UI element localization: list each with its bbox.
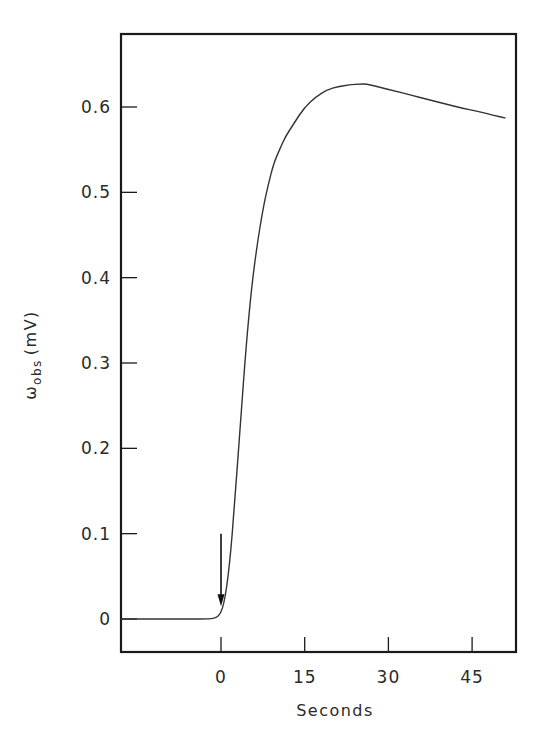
- x-tick-label: 30: [377, 667, 401, 687]
- y-tick-label: 0.5: [81, 182, 111, 202]
- y-tick-label: 0.6: [81, 97, 111, 117]
- y-tick-label: 0.4: [81, 268, 111, 288]
- y-tick-label: 0: [99, 609, 111, 629]
- x-tick-label: 0: [215, 667, 227, 687]
- y-tick-label: 0.1: [81, 524, 111, 544]
- y-axis-title-unit: (mV): [21, 310, 40, 355]
- x-tick-label: 45: [460, 667, 484, 687]
- x-axis-title: Seconds: [296, 701, 374, 720]
- y-tick-label: 0.3: [81, 353, 111, 373]
- y-axis-title-subscript: obs: [30, 359, 44, 385]
- y-tick-label: 0.2: [81, 438, 111, 458]
- y-axis-title-symbol: ω: [21, 385, 40, 400]
- x-tick-label: 15: [293, 667, 317, 687]
- chart-canvas: 00.10.20.30.40.50.6 0153045 Seconds ωobs…: [0, 0, 545, 729]
